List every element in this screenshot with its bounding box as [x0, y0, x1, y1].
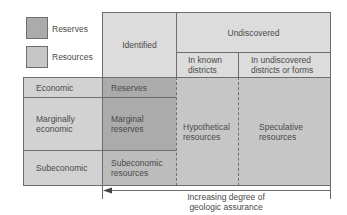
cell-subeconomic-resources: Subeconomic resources: [102, 150, 177, 186]
legend-label-reserves: Reserves: [52, 24, 88, 34]
header-in-known-districts-label: In known districts: [188, 55, 222, 75]
row-label-economic: Economic: [23, 77, 103, 98]
axis-label: Increasing degree of geologic assurance: [176, 192, 276, 212]
arrow-left-icon: [103, 187, 112, 194]
cell-reserves: Reserves: [102, 77, 177, 98]
axis-right-tick: [330, 185, 331, 199]
header-undiscovered-label: Undiscovered: [228, 28, 280, 38]
row-label-subeconomic: Subeconomic: [23, 150, 103, 186]
cell-hypothetical-resources: Hypothetical resources: [177, 77, 238, 186]
axis-line: [106, 190, 330, 191]
legend-label-resources: Resources: [52, 52, 93, 62]
row-label-marginally-economic: Marginally economic: [23, 97, 103, 151]
header-identified: Identified: [102, 12, 177, 78]
header-undiscovered: Undiscovered: [176, 12, 331, 53]
legend-swatch-reserves: [26, 17, 48, 39]
header-in-undiscovered-districts-label: In undiscovered districts or forms: [251, 55, 313, 75]
cell-speculative-resources: Speculative resources: [239, 77, 331, 186]
header-in-known-districts: In known districts: [176, 52, 239, 78]
cell-marginal-reserves: Marginal reserves: [102, 97, 177, 151]
legend-swatch-resources: [26, 46, 48, 68]
header-in-undiscovered-districts: In undiscovered districts or forms: [238, 52, 331, 78]
header-identified-label: Identified: [122, 40, 157, 50]
